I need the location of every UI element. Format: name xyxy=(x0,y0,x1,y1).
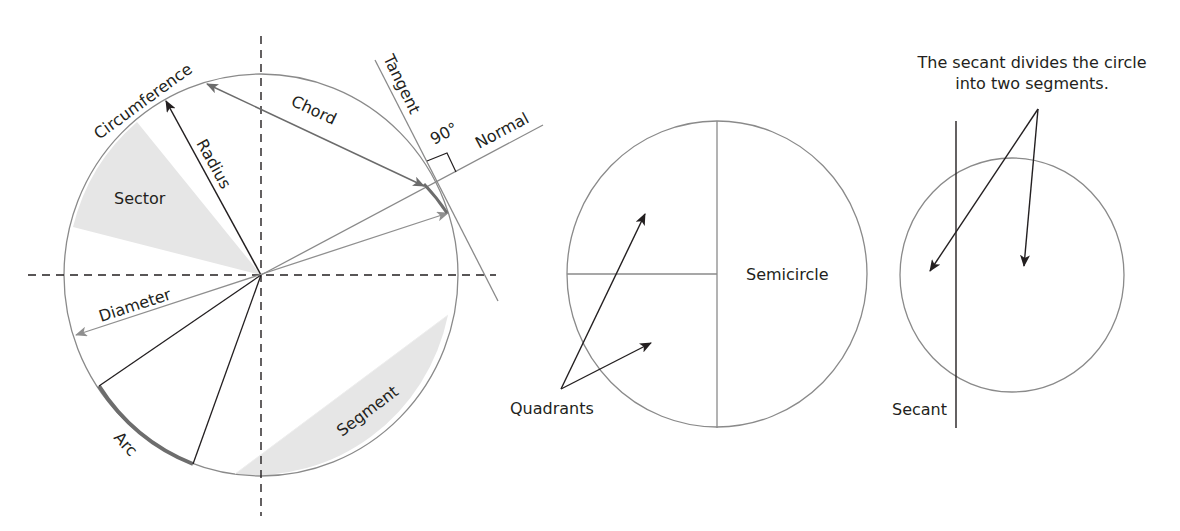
tangent-label: Tangent xyxy=(379,51,424,117)
arc-highlight xyxy=(99,386,193,464)
arc-radius-2 xyxy=(193,275,261,464)
segment-arrow-right xyxy=(1024,109,1038,266)
radius-label: Radius xyxy=(193,136,236,192)
secant-circle-outline xyxy=(900,158,1124,392)
normal-label: Normal xyxy=(472,109,532,153)
circle-parts-diagram: Circumference Chord Tangent 90° Normal R… xyxy=(0,0,1180,531)
chord-label: Chord xyxy=(288,91,339,128)
tangent-line xyxy=(375,60,498,301)
sector-label: Sector xyxy=(114,189,166,208)
quadrant-circle-group: Quadrants Semicircle xyxy=(510,121,867,428)
diameter-label: Diameter xyxy=(96,285,173,326)
secant-caption-line1: The secant divides the circle xyxy=(917,53,1147,72)
secant-label: Secant xyxy=(892,400,947,419)
secant-caption-line2: into two segments. xyxy=(955,74,1109,93)
sector-shade xyxy=(73,122,261,275)
segment-arrow-left xyxy=(930,109,1038,271)
semicircle-label: Semicircle xyxy=(746,265,829,284)
arc-radius-1 xyxy=(99,275,261,386)
main-circle-group: Circumference Chord Tangent 90° Normal R… xyxy=(28,36,543,516)
quadrant-arrow-upper xyxy=(561,214,645,389)
angle-label: 90° xyxy=(427,118,461,148)
quadrants-label: Quadrants xyxy=(510,399,594,418)
secant-circle-group: The secant divides the circle into two s… xyxy=(892,53,1146,428)
quadrant-arrow-lower xyxy=(561,343,651,389)
normal-line xyxy=(261,125,543,275)
